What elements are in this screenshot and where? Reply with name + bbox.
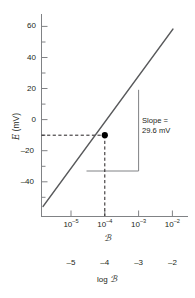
x-tick-exponent: –2 bbox=[174, 218, 180, 224]
log-axis-title-prefix: log bbox=[97, 275, 110, 284]
y-axis-title-units: (mV) bbox=[11, 113, 21, 134]
log-tick-label-neg4: –4 bbox=[90, 259, 120, 267]
log-tick-label-neg3: –3 bbox=[124, 259, 154, 267]
x-tick-mantissa: 10 bbox=[63, 220, 72, 229]
y-tick-label-20: 20 bbox=[14, 85, 36, 93]
log-axis-title: log ℬ bbox=[86, 275, 128, 284]
y-tick-label-neg20: –20 bbox=[12, 147, 34, 155]
x-tick-mantissa: 10 bbox=[97, 220, 106, 229]
x-tick-mantissa: 10 bbox=[131, 220, 140, 229]
x-tick-label-1e-5: 10–5 bbox=[56, 219, 86, 229]
y-tick-label-60: 60 bbox=[14, 22, 36, 30]
x-axis-ticks bbox=[71, 211, 172, 217]
x-tick-exponent: –4 bbox=[106, 218, 112, 224]
x-tick-exponent: –3 bbox=[140, 218, 146, 224]
activity-symbol: ℬ bbox=[104, 233, 111, 243]
y-axis-ticks bbox=[42, 26, 48, 197]
x-tick-label-1e-3: 10–3 bbox=[124, 219, 154, 229]
guide-lines bbox=[42, 135, 105, 216]
y-axis-title: E (mV) bbox=[11, 113, 21, 140]
x-tick-mantissa: 10 bbox=[165, 220, 174, 229]
log-tick-label-neg2: –2 bbox=[157, 259, 187, 267]
x-tick-label-1e-2: 10–2 bbox=[157, 219, 187, 229]
x-tick-exponent: –5 bbox=[72, 218, 78, 224]
y-tick-label-neg40: –40 bbox=[12, 178, 34, 186]
y-axis-title-symbol: E bbox=[11, 134, 21, 140]
slope-triangle bbox=[87, 90, 139, 171]
x-tick-label-1e-4: 10–4 bbox=[90, 219, 120, 229]
chart-figure: 60 40 20 0 –20 –40 E (mV) 10–5 10–4 10–3… bbox=[0, 0, 195, 298]
calibration-point-marker bbox=[102, 132, 108, 138]
y-tick-label-40: 40 bbox=[14, 54, 36, 62]
slope-annotation-line1: Slope = bbox=[142, 116, 168, 126]
log-tick-label-neg5: –5 bbox=[56, 259, 86, 267]
slope-annotation-line2: 29.6 mV bbox=[142, 126, 170, 136]
activity-symbol: ℬ bbox=[110, 274, 117, 284]
x-axis-title: ℬ bbox=[92, 234, 122, 243]
